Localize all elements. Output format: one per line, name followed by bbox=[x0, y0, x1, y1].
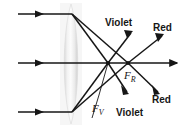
arrowhead-violet-down bbox=[121, 85, 129, 95]
ray-red-diverging-up bbox=[128, 36, 162, 63]
arrowhead-top-ray bbox=[35, 11, 44, 18]
label-focus-red: FR bbox=[124, 70, 136, 84]
focus-violet-subscript: V bbox=[99, 108, 104, 117]
arrowhead-bottom-ray bbox=[35, 109, 44, 116]
focus-red-letter: F bbox=[124, 69, 131, 81]
optics-diagram-chromatic-aberration: Violet Red Red Violet FR FV bbox=[0, 0, 181, 126]
label-focus-violet: FV bbox=[92, 103, 104, 117]
focus-violet-letter: F bbox=[92, 102, 99, 114]
focus-red-dot bbox=[126, 61, 130, 65]
incident-ray-arrowheads bbox=[35, 11, 44, 116]
diagram-canvas bbox=[0, 0, 181, 126]
arrowhead-axis-ray bbox=[35, 60, 44, 67]
label-red-top: Red bbox=[153, 23, 172, 33]
focus-red-subscript: R bbox=[131, 75, 136, 84]
label-violet-top: Violet bbox=[105, 18, 132, 28]
refracted-rays-bottom-edge bbox=[72, 33, 162, 112]
focus-violet-dot bbox=[106, 61, 110, 65]
ray-thin-from-violet-focus bbox=[99, 63, 108, 95]
label-red-bottom: Red bbox=[152, 95, 171, 105]
label-violet-bottom: Violet bbox=[116, 108, 143, 118]
